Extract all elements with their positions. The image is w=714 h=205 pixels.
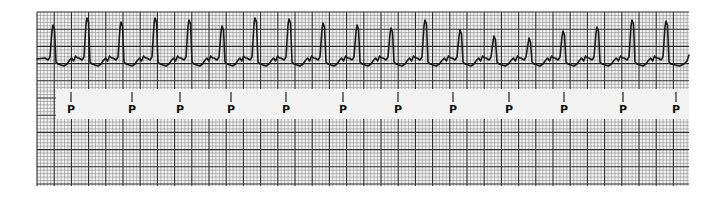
- p-wave-label: P: [339, 103, 347, 116]
- p-wave-label: P: [394, 103, 402, 116]
- p-wave-label: P: [227, 103, 235, 116]
- p-wave-label: P: [128, 103, 136, 116]
- p-wave-label: P: [560, 103, 568, 116]
- p-wave-label: P: [449, 103, 457, 116]
- p-wave-label: P: [176, 103, 184, 116]
- p-wave-label: P: [672, 103, 680, 116]
- p-wave-label: P: [505, 103, 513, 116]
- p-wave-label: P: [282, 103, 290, 116]
- p-wave-label: P: [67, 103, 75, 116]
- ecg-rhythm-strip: PPPPPPPPPPPP: [0, 0, 714, 205]
- p-wave-label: P: [619, 103, 627, 116]
- p-wave-label-band: [56, 89, 689, 119]
